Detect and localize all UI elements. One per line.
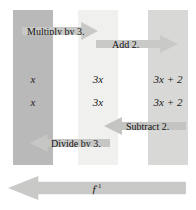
value-x-top: x (13, 74, 53, 85)
diagram-canvas: Multiply by 3. Add 2. x 3x 3x + 2 x 3x 3… (0, 0, 196, 210)
inverse-function-exponent: -1 (96, 182, 102, 190)
arrow-inverse-function-label: f-1 (8, 181, 186, 195)
value-x-bottom: x (13, 97, 53, 108)
arrow-inverse-function: f-1 (8, 176, 186, 200)
value-3x-bottom: 3x (76, 97, 120, 108)
value-3x-plus-2-bottom: 3x + 2 (142, 97, 194, 108)
band-output-column (148, 10, 188, 165)
value-3x-top: 3x (76, 74, 120, 85)
value-3x-plus-2-top: 3x + 2 (142, 74, 194, 85)
